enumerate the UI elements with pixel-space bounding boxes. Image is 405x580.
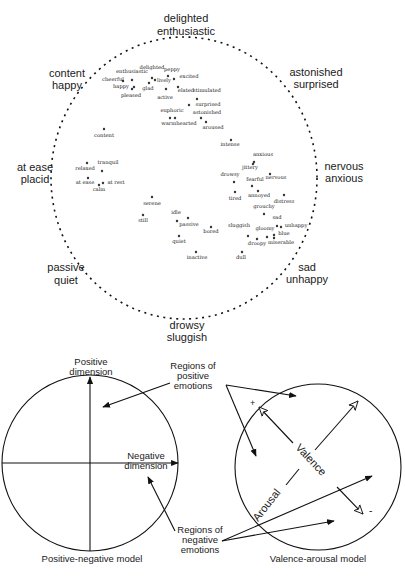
emotion-circumplex-figure: delighted enthusiastic content happy ast… (0, 0, 405, 580)
anchor-bottom-left-2: quiet (54, 274, 78, 286)
diamond-marker-icon (101, 169, 104, 172)
emotion-word-label: fearful (246, 176, 264, 182)
pn-caption: Positive-negative model (42, 553, 143, 564)
positive-arrow-right-b (226, 385, 256, 456)
emotion-word: at ease (76, 176, 95, 185)
emotion-word-label: excited (179, 73, 199, 79)
emotion-word-label: tired (229, 195, 242, 201)
emotion-word: intense (220, 138, 239, 147)
emotion-word-label: relaxed (75, 165, 95, 171)
emotion-word-label: at rest (107, 179, 125, 185)
emotion-word-label: euphoric (160, 107, 183, 114)
diamond-marker-icon (151, 195, 154, 198)
emotion-word-label: delighted (140, 64, 166, 71)
emotion-word-label: inactive (187, 254, 208, 260)
circumplex-diagram: delighted enthusiastic content happy ast… (17, 12, 364, 343)
emotion-word-label: sad (272, 214, 282, 220)
emotion-word: passive (179, 216, 198, 228)
diamond-marker-icon (251, 184, 254, 187)
positive-arrow-left (103, 383, 170, 407)
diamond-marker-icon (176, 219, 179, 222)
emotion-word-points: enthusiasticdelightedpeppycheerfulexcite… (75, 64, 307, 260)
emotion-word: active (157, 87, 173, 100)
va-valence-axis-lower (337, 487, 363, 514)
emotion-word-label: anxious (253, 151, 273, 157)
emotion-word: nervous (266, 172, 287, 180)
diamond-marker-icon (133, 85, 136, 88)
diamond-marker-icon (187, 216, 190, 219)
anchor-right-1: nervous (324, 160, 364, 172)
emotion-word: miserable (268, 236, 294, 245)
emotion-word-label: peppy (164, 66, 180, 73)
emotion-word: warmhearted (161, 116, 197, 126)
emotion-word-label: intense (220, 141, 239, 147)
anchor-top-1: delighted (164, 12, 209, 24)
emotion-word: cheerful (102, 76, 124, 83)
emotion-word-label: serene (143, 200, 161, 206)
emotion-word: content (94, 127, 115, 138)
diamond-marker-icon (131, 78, 134, 81)
emotion-word: tired (229, 190, 242, 201)
emotion-word: glad (142, 81, 154, 92)
va-arousal-axis-mid (286, 469, 299, 485)
emotion-word: sluggish (228, 222, 251, 238)
emotion-word-label: active (157, 94, 173, 100)
negative-arrow-left (148, 477, 175, 531)
emotion-word-label: unhappy (285, 222, 308, 229)
emotion-word: peppy (164, 66, 180, 78)
emotion-word-label: idle (171, 209, 181, 215)
emotion-word: quiet (172, 234, 186, 245)
emotion-word-label: drowsy (221, 171, 240, 178)
emotion-word: unhappy (280, 222, 308, 229)
emotion-word: anxious (253, 151, 274, 164)
emotion-word: distress (274, 193, 295, 204)
emotion-word-label: calm (93, 186, 106, 192)
emotion-word: at rest (102, 179, 126, 185)
emotion-word-label: passive (179, 221, 198, 228)
diamond-marker-icon (247, 234, 250, 237)
emotion-word: serene (143, 195, 161, 206)
va-plus-marker: + (250, 398, 255, 408)
emotion-word-label: bored (203, 228, 219, 234)
emotion-word-label: glad (142, 85, 154, 92)
anchor-top-right-1: astonished (289, 66, 342, 78)
emotion-word: aroused (202, 120, 224, 130)
emotion-word: calm (93, 183, 106, 192)
emotion-word: jittery (241, 162, 258, 171)
emotion-word-label: aroused (202, 124, 224, 130)
diamond-marker-icon (173, 77, 176, 80)
emotion-word: inactive (187, 250, 208, 260)
emotion-word: bored (203, 225, 219, 234)
diamond-marker-icon (263, 212, 266, 215)
emotion-word-label: quiet (172, 238, 186, 245)
pn-horizontal-label-2: dimension (124, 460, 167, 471)
anchor-bottom-right-2: unhappy (286, 273, 329, 285)
diamond-marker-icon (151, 76, 154, 79)
emotion-word-label: nervous (266, 174, 287, 180)
diamond-marker-icon (234, 190, 237, 193)
emotion-word-label: content (94, 132, 115, 138)
va-arousal-axis-upper (315, 401, 358, 450)
emotion-word: still (138, 213, 148, 223)
callout-positive-3: emotions (174, 380, 213, 391)
emotion-word-label: droopy (248, 240, 266, 247)
emotion-word-label: warmhearted (161, 120, 197, 126)
diamond-marker-icon (280, 225, 283, 228)
emotion-word: annoyed (248, 189, 271, 199)
diamond-marker-icon (233, 180, 236, 183)
diamond-marker-icon (188, 103, 191, 106)
va-valence-label: Valence (294, 441, 329, 478)
emotion-word-label: lively (157, 77, 171, 84)
emotion-word-label: distress (274, 198, 295, 204)
pn-vertical-label-2: dimension (69, 366, 112, 377)
anchor-left-1: at ease (17, 161, 53, 173)
emotion-word-label: blue (278, 230, 289, 236)
emotion-word-label: astonished (193, 109, 222, 115)
diamond-marker-icon (273, 233, 276, 236)
va-arousal-label: Arousal (250, 486, 282, 523)
diamond-marker-icon (200, 116, 203, 119)
va-minus-marker: - (369, 505, 372, 516)
emotion-word-label: tranquil (98, 159, 119, 166)
emotion-word: blue (273, 230, 290, 237)
va-valence-axis-upper (259, 407, 293, 443)
